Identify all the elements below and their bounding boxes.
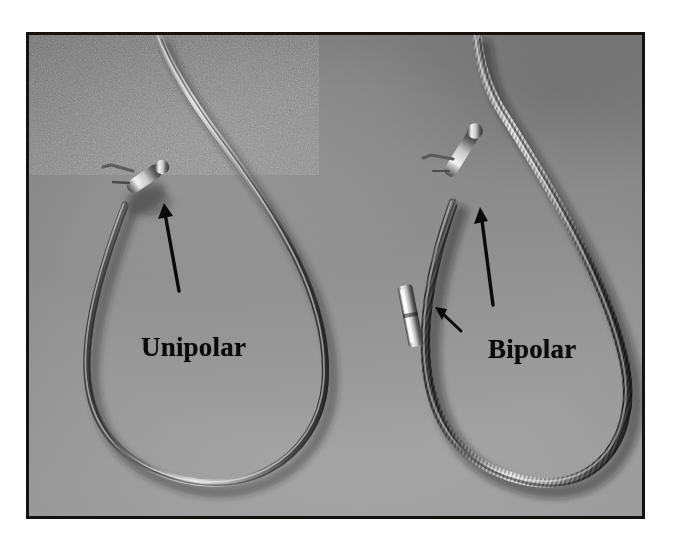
unipolar-cable	[87, 37, 326, 483]
arrow-bipolar-tip	[474, 207, 493, 305]
label-bipolar: Bipolar	[488, 334, 576, 365]
unipolar-lead	[85, 36, 332, 492]
photograph-frame: Unipolar Bipolar	[26, 32, 645, 519]
arrow-bipolar-tip-head	[474, 207, 488, 224]
bipolar-electrode-band	[397, 284, 424, 348]
arrow-unipolar	[158, 203, 179, 291]
unipolar-shadow	[94, 46, 333, 492]
unipolar-tip-wire-2	[113, 182, 129, 183]
arrow-bipolar-tip-shaft	[481, 213, 493, 305]
unipolar-tip-wire	[103, 165, 133, 171]
bipolar-tip-cap	[467, 123, 483, 139]
figure-page: Unipolar Bipolar	[0, 0, 675, 545]
catheter-leads-illustration	[29, 35, 642, 516]
arrow-unipolar-shaft	[164, 208, 179, 291]
bipolar-shade-edge	[429, 40, 631, 486]
bipolar-electrode-tip	[423, 123, 483, 179]
label-unipolar: Unipolar	[141, 332, 246, 363]
unipolar-tip-cap	[155, 160, 169, 174]
unipolar-shade-edge	[89, 39, 328, 485]
bipolar-tip-wire	[423, 155, 453, 159]
bipolar-lead	[397, 36, 636, 492]
bipolar-shadow	[434, 46, 636, 492]
